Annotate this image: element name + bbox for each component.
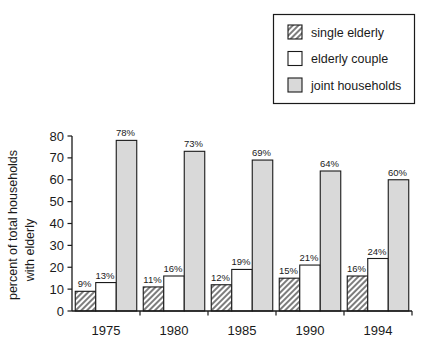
legend-label-joint-households: joint households xyxy=(310,79,401,93)
bar-joint-households-1975 xyxy=(116,140,137,311)
bar-joint-households-1985 xyxy=(252,160,273,311)
bar-value-label: 69% xyxy=(252,147,272,158)
legend-swatch-hatch-swatch xyxy=(288,25,302,39)
y-tick-label: 60 xyxy=(50,172,64,187)
bar-elderly-couple-1975 xyxy=(96,283,117,311)
x-tick-label: 1994 xyxy=(364,323,393,338)
bar-single-elderly-1975 xyxy=(75,291,96,311)
bar-value-label: 13% xyxy=(95,270,115,281)
x-tick-label: 1980 xyxy=(160,323,189,338)
y-tick-label: 30 xyxy=(50,238,64,253)
bar-single-elderly-1990 xyxy=(279,278,300,311)
legend: single elderlyelderly couplejoint househ… xyxy=(274,15,415,104)
bar-single-elderly-1980 xyxy=(143,287,164,311)
grouped-bar-chart: 0102030405060708019751980198519901994 9%… xyxy=(0,0,422,348)
bar-elderly-couple-1985 xyxy=(232,269,253,311)
y-tick-label: 10 xyxy=(50,282,64,297)
x-tick-label: 1975 xyxy=(92,323,121,338)
bar-joint-households-1990 xyxy=(320,171,341,311)
bar-value-label: 11% xyxy=(143,274,162,285)
bar-elderly-couple-1994 xyxy=(368,259,389,312)
bar-value-label: 21% xyxy=(299,252,319,263)
legend-swatch-gray-swatch xyxy=(288,78,302,92)
y-tick-label: 20 xyxy=(50,260,64,275)
y-axis-title-line1: percent of total households xyxy=(6,150,20,300)
bar-value-label: 19% xyxy=(231,256,251,267)
legend-label-elderly-couple: elderly couple xyxy=(311,52,388,66)
bar-value-label: 64% xyxy=(320,158,340,169)
bar-joint-households-1980 xyxy=(184,151,205,311)
bar-elderly-couple-1990 xyxy=(300,265,321,311)
bar-value-label: 16% xyxy=(347,263,367,274)
legend-label-single-elderly: single elderly xyxy=(311,26,385,40)
bar-value-label: 16% xyxy=(163,263,183,274)
x-tick-label: 1985 xyxy=(228,323,257,338)
bar-value-label: 73% xyxy=(184,138,204,149)
bar-value-label: 60% xyxy=(388,167,408,178)
bar-elderly-couple-1980 xyxy=(164,276,185,311)
chart-root: 0102030405060708019751980198519901994 9%… xyxy=(0,0,422,348)
bar-value-label: 15% xyxy=(279,265,299,276)
y-axis-title-line2: with elderly xyxy=(23,218,37,282)
bar-single-elderly-1994 xyxy=(347,276,368,311)
y-tick-label: 0 xyxy=(57,304,64,319)
bar-value-label: 24% xyxy=(367,246,387,257)
x-tick-label: 1990 xyxy=(296,323,325,338)
legend-swatch-empty-swatch xyxy=(288,52,302,66)
y-tick-label: 70 xyxy=(50,150,64,165)
bar-value-label: 9% xyxy=(78,278,92,289)
y-tick-label: 50 xyxy=(50,194,64,209)
y-tick-label: 40 xyxy=(50,216,64,231)
bar-value-label: 12% xyxy=(211,272,231,283)
y-tick-label: 80 xyxy=(50,129,64,144)
bar-value-label: 78% xyxy=(116,127,136,138)
bar-single-elderly-1985 xyxy=(211,285,232,311)
bar-joint-households-1994 xyxy=(388,180,409,311)
